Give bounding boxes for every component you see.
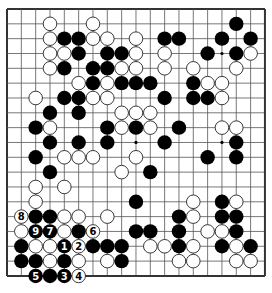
- black-stone: [243, 239, 257, 253]
- white-stone: [58, 210, 72, 224]
- white-stone: [101, 210, 115, 224]
- black-stone: [43, 269, 57, 283]
- black-stone: [129, 195, 143, 209]
- white-stone: [215, 91, 229, 105]
- white-stone: [244, 254, 258, 268]
- black-stone: [172, 120, 186, 134]
- white-stone: [43, 32, 57, 46]
- black-stone: [57, 61, 71, 75]
- black-stone: [71, 106, 85, 120]
- white-stone: [229, 239, 243, 253]
- black-stone: [100, 46, 114, 60]
- black-stone: [215, 195, 229, 209]
- move-number-label: 9: [32, 226, 39, 237]
- black-stone: [28, 254, 42, 268]
- white-stone: [129, 106, 143, 120]
- white-stone: [158, 47, 172, 61]
- white-stone: [58, 225, 72, 239]
- move-number-label: 3: [61, 271, 68, 282]
- white-stone: [86, 91, 100, 105]
- black-stone: [43, 135, 57, 149]
- black-stone: 3: [57, 269, 71, 283]
- white-stone: [144, 121, 158, 135]
- black-stone: [172, 239, 186, 253]
- black-stone: [43, 106, 57, 120]
- black-stone: [100, 61, 114, 75]
- white-stone: [29, 195, 43, 209]
- black-stone: [129, 120, 143, 134]
- white-stone: [58, 180, 72, 194]
- white-stone: [186, 195, 200, 209]
- black-stone: [172, 209, 186, 223]
- white-stone: 2: [72, 239, 86, 253]
- black-stone: [143, 224, 157, 238]
- black-stone: [215, 31, 229, 45]
- black-stone: [143, 165, 157, 179]
- black-stone: [200, 150, 214, 164]
- white-stone: [229, 254, 243, 268]
- go-board-diagram: 897612534: [0, 0, 272, 293]
- white-stone: [129, 47, 143, 61]
- black-stone: 9: [28, 224, 42, 238]
- white-stone: [43, 239, 57, 253]
- white-stone: [101, 76, 115, 90]
- white-stone: [43, 121, 57, 135]
- black-stone: [71, 91, 85, 105]
- black-stone: [71, 224, 85, 238]
- black-stone: [215, 239, 229, 253]
- white-stone: [72, 254, 86, 268]
- black-stone: [43, 209, 57, 223]
- black-stone: [114, 76, 128, 90]
- black-stone: [71, 46, 85, 60]
- black-stone: [28, 120, 42, 134]
- white-stone: [229, 121, 243, 135]
- black-stone: [57, 91, 71, 105]
- white-stone: [201, 76, 215, 90]
- black-stone: [100, 239, 114, 253]
- black-stone: [229, 135, 243, 149]
- black-stone: [43, 165, 57, 179]
- white-stone: [101, 32, 115, 46]
- black-stone: [100, 120, 114, 134]
- black-stone: [86, 76, 100, 90]
- black-stone: [14, 239, 28, 253]
- white-stone: [129, 62, 143, 76]
- white-stone: [229, 195, 243, 209]
- white-stone: [115, 165, 129, 179]
- white-stone: [29, 239, 43, 253]
- move-number-label: 8: [18, 211, 25, 222]
- white-stone: [72, 151, 86, 165]
- white-stone: [144, 106, 158, 120]
- black-stone: [28, 150, 42, 164]
- white-stone: [115, 62, 129, 76]
- white-stone: [58, 47, 72, 61]
- white-stone: [86, 17, 100, 31]
- black-stone: [229, 209, 243, 223]
- black-stone: [186, 76, 200, 90]
- white-stone: [43, 62, 57, 76]
- white-stone: [129, 32, 143, 46]
- white-stone: [129, 151, 143, 165]
- black-stone: [186, 91, 200, 105]
- black-stone: [114, 254, 128, 268]
- white-stone: [215, 76, 229, 90]
- white-stone: [186, 239, 200, 253]
- black-stone: [200, 46, 214, 60]
- white-stone: [115, 121, 129, 135]
- black-stone: [57, 31, 71, 45]
- white-stone: [215, 121, 229, 135]
- black-stone: [14, 254, 28, 268]
- black-stone: [114, 239, 128, 253]
- white-stone: [15, 225, 29, 239]
- white-stone: [101, 91, 115, 105]
- white-stone: [244, 47, 258, 61]
- white-stone: 4: [72, 269, 86, 283]
- move-number-label: 4: [75, 271, 82, 282]
- white-stone: [144, 239, 158, 253]
- white-stone: [29, 91, 43, 105]
- black-stone: [200, 91, 214, 105]
- move-number-label: 6: [89, 226, 96, 237]
- move-number-label: 1: [61, 241, 68, 252]
- white-stone: [86, 151, 100, 165]
- black-stone: [129, 76, 143, 90]
